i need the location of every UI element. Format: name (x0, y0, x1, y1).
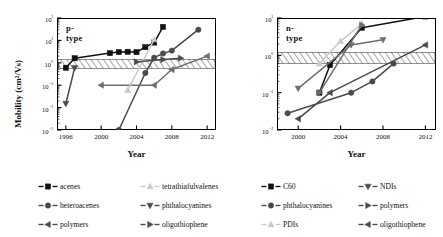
legend-label: oligothiophene (162, 221, 208, 229)
legend-marker-triangle-down-icon (358, 182, 378, 191)
legend-marker-triangle-left-icon (358, 220, 378, 229)
x-axis-label-right: Year (277, 149, 436, 159)
legend-marker-triangle-up-icon (261, 220, 281, 229)
legend-label: C60 (283, 183, 296, 191)
data-point (348, 90, 353, 95)
data-point (295, 116, 301, 122)
legend-item-acenes[interactable]: acenes (38, 182, 80, 191)
legend-item-polymers[interactable]: polymers (358, 201, 408, 210)
legend-label: PDIs (283, 221, 298, 229)
legend-item-heteroacenes[interactable]: heteroacenes (38, 201, 99, 210)
legend-marker-triangle-down-icon (140, 201, 160, 210)
legend-item-tetrathiafulvalenes[interactable]: tetrathiafulvalenes (140, 182, 218, 191)
data-point (422, 42, 428, 48)
x-tick-label: 2000 (282, 133, 314, 141)
legend-marker-square-icon (38, 182, 58, 191)
x-tick-label: 2008 (367, 133, 399, 141)
mobility-band (278, 52, 435, 63)
data-point (285, 111, 290, 116)
legend-marker-circle-icon (38, 201, 58, 210)
legend-item-phthalocyanines[interactable]: phthalocyanines (140, 201, 211, 210)
legend-marker-triangle-up-icon (140, 182, 160, 191)
legend-label: tetrathiafulvalenes (162, 183, 218, 191)
figure-root: Mobility (cm²/Vs) 10²10¹10⁰10⁻¹10⁻²10⁻³ … (0, 0, 443, 237)
legend-label: polymers (380, 202, 408, 210)
data-point (423, 14, 428, 19)
legend-item-oligothiophene[interactable]: oligothiophene (140, 220, 208, 229)
legend-marker-triangle-right-icon (140, 220, 160, 229)
data-point (370, 79, 375, 84)
legend-marker-triangle-right-icon (358, 201, 378, 210)
legend-item-pdis[interactable]: PDIs (261, 220, 298, 229)
panel-label-n-type: n-type (286, 23, 302, 43)
legend-label: oligothiophene (380, 221, 426, 229)
legend-label: phthalocyanines (162, 202, 211, 210)
legend-marker-square-icon (261, 182, 281, 191)
legend-marker-triangle-left-icon (38, 220, 58, 229)
data-point (295, 86, 301, 92)
legend-marker-circle-icon (261, 201, 281, 210)
legend-label: heteroacenes (60, 202, 99, 210)
legend-item-oligothiophene[interactable]: oligothiophene (358, 220, 426, 229)
x-tick-label: 2012 (409, 133, 441, 141)
legend-item-phthalocyanines[interactable]: phthalocyanines (261, 201, 332, 210)
x-tick-label: 2004 (325, 133, 357, 141)
legend-label: polymers (60, 221, 88, 229)
legend-item-c60[interactable]: C60 (261, 182, 296, 191)
legend-label: NDIs (380, 183, 396, 191)
legend-label: acenes (60, 183, 80, 191)
legend-label: phthalocyanines (283, 202, 332, 210)
series-phthalocyanines (285, 61, 396, 116)
legend-item-ndis[interactable]: NDIs (358, 182, 396, 191)
legend-item-polymers[interactable]: polymers (38, 220, 88, 229)
